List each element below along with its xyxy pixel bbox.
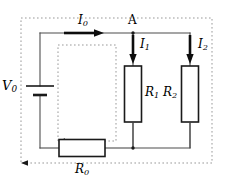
resistor-r2-body [182, 66, 199, 122]
label-r1: R1 [145, 86, 159, 99]
label-i2: I2 [198, 38, 208, 51]
inner-loop-dashed-rect [58, 45, 116, 144]
label-i1: I1 [140, 38, 150, 51]
label-v0: V0 [2, 79, 17, 94]
arrow-i1 [129, 35, 136, 64]
node-bottom-junction-dot [131, 146, 134, 149]
resistor-r1-body [125, 66, 142, 122]
circuit-diagram-figure: V0 I0 A I1 I2 R1 R2 R0 [0, 0, 227, 184]
resistor-r0-body [59, 140, 105, 157]
arrow-i2 [186, 35, 193, 64]
label-r2: R2 [163, 86, 177, 99]
resistor-leads [133, 122, 190, 148]
label-i0: I0 [78, 14, 88, 27]
circuit-canvas [0, 0, 227, 184]
arrow-i0 [64, 29, 104, 36]
node-a-dot [131, 31, 134, 34]
battery-symbol [26, 86, 54, 95]
label-node-a: A [128, 14, 137, 26]
label-r0: R0 [75, 163, 89, 176]
outer-loop-direction-arrow [21, 160, 28, 166]
